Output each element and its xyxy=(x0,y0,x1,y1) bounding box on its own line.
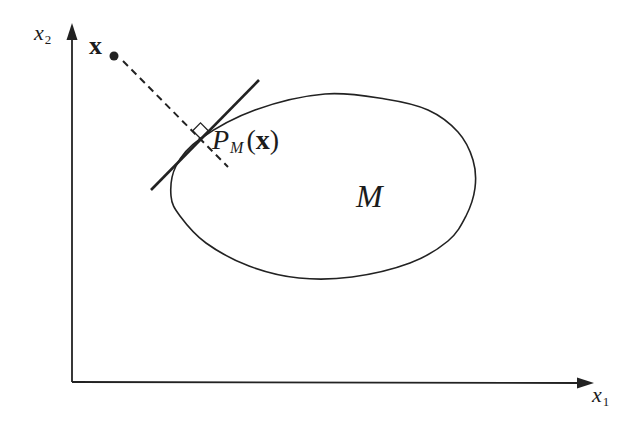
right-angle-marker xyxy=(193,123,209,139)
projection-label-arg: x xyxy=(256,124,270,155)
point-x-label: x xyxy=(89,33,102,59)
x-axis-label-base: x xyxy=(592,382,602,407)
projection-label-open-paren: ( xyxy=(246,124,255,155)
set-label: M xyxy=(356,180,383,212)
projection-label-sub: M xyxy=(230,139,243,156)
point-x-dot xyxy=(110,52,119,61)
projection-label-base: P xyxy=(212,124,229,155)
y-axis-label-base: x xyxy=(34,20,44,45)
y-axis-label-sub: 2 xyxy=(45,32,52,47)
x-axis-label: x1 xyxy=(592,384,609,408)
convex-set-boundary xyxy=(171,94,476,280)
x-axis-label-sub: 1 xyxy=(603,394,610,409)
projection-label-close-paren: ) xyxy=(270,124,279,155)
y-axis-arrowhead xyxy=(67,23,78,40)
projection-point-label: PM(x) xyxy=(212,126,279,156)
x-axis-line xyxy=(72,382,579,383)
figure-canvas xyxy=(0,0,635,425)
projection-onto-convex-set-diagram: x2 x1 x PM(x) M xyxy=(0,0,635,425)
y-axis-label: x2 xyxy=(34,22,51,46)
